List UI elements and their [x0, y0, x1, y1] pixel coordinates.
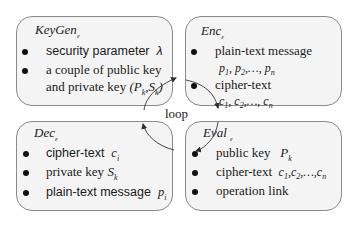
- arrow-eval-to-dec: [196, 122, 218, 151]
- arrow-dec-to-keygen: [143, 124, 174, 150]
- arrow-keygen-to-enc: [144, 78, 176, 110]
- arrow-enc-to-eval: [186, 80, 218, 108]
- loop-arrows: [0, 0, 357, 231]
